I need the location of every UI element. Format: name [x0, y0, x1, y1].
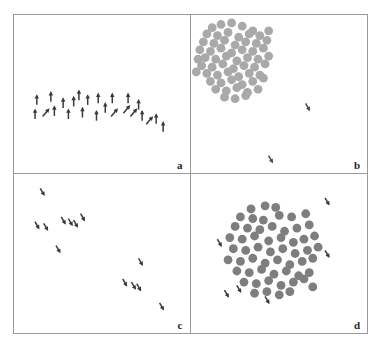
- data-point-tick: [137, 257, 145, 267]
- data-point-dot: [232, 267, 241, 276]
- data-point-dot: [244, 268, 253, 277]
- data-point-arrow: [136, 99, 140, 110]
- data-point-dot: [216, 20, 225, 29]
- data-point-arrow: [86, 94, 90, 105]
- data-point-arrow: [96, 93, 100, 104]
- data-point-dot: [236, 213, 245, 222]
- figure-four-panel-grid: a b c d: [13, 14, 368, 334]
- figure-panel-grid-container: a b c d: [0, 0, 384, 352]
- data-point-tick: [158, 302, 166, 312]
- data-point-dot: [195, 45, 204, 54]
- data-point-dot: [230, 94, 239, 103]
- data-point-dot: [218, 60, 227, 69]
- data-point-arrow: [103, 102, 107, 113]
- data-point-tick: [66, 217, 74, 227]
- data-point-dot: [198, 37, 207, 46]
- panel-a-svg: [14, 15, 190, 173]
- panel-b-label: b: [354, 160, 360, 171]
- data-point-dot: [248, 214, 257, 223]
- data-point-dot: [220, 36, 229, 45]
- data-point-dot: [288, 278, 297, 287]
- data-point-dot: [248, 254, 257, 263]
- panel-d[interactable]: d: [191, 174, 368, 333]
- data-point-arrow: [126, 93, 130, 104]
- data-point-dot: [211, 85, 220, 94]
- data-point-dot: [267, 222, 276, 231]
- data-point-dot: [241, 37, 250, 46]
- data-point-dot: [304, 220, 313, 229]
- data-point-tick: [303, 102, 311, 112]
- data-point-dot: [239, 278, 248, 287]
- panel-b[interactable]: b: [191, 15, 368, 174]
- data-point-arrow: [154, 113, 158, 124]
- data-point-dot: [202, 30, 211, 39]
- data-point-dot: [250, 289, 259, 298]
- data-point-tick: [38, 187, 46, 197]
- data-point-dot: [266, 248, 275, 257]
- data-point-dot: [241, 246, 250, 255]
- data-point-dot: [260, 60, 269, 69]
- data-point-arrow: [129, 107, 139, 118]
- panel-c[interactable]: c: [14, 174, 191, 333]
- data-point-dot: [303, 246, 312, 255]
- data-point-dot: [301, 209, 310, 218]
- data-point-dot: [244, 30, 253, 39]
- data-point-dot: [227, 19, 236, 28]
- data-point-dot: [262, 287, 271, 296]
- data-point-dot: [213, 71, 222, 80]
- data-point-arrow: [61, 97, 65, 108]
- data-point-arrow: [145, 115, 155, 126]
- panel-a[interactable]: a: [14, 15, 191, 174]
- data-point-dot: [262, 36, 271, 45]
- data-point-dot: [228, 244, 237, 253]
- panel-d-label: d: [354, 320, 360, 331]
- data-point-dot: [232, 83, 241, 92]
- data-point-dot: [206, 77, 215, 86]
- data-point-dot: [248, 77, 257, 86]
- data-point-dot: [281, 267, 290, 276]
- data-point-dot: [223, 28, 232, 37]
- data-point-dot: [225, 233, 234, 242]
- data-point-dot: [258, 44, 267, 53]
- panel-b-svg: [191, 15, 368, 173]
- data-point-tick: [33, 221, 41, 231]
- data-point-dot: [308, 254, 317, 263]
- panel-a-plot-area: [14, 15, 190, 173]
- data-point-dot: [241, 91, 250, 100]
- data-point-dot: [244, 69, 253, 78]
- panel-b-plot-area: [191, 15, 368, 173]
- data-point-dot: [193, 55, 202, 64]
- data-point-dot: [246, 205, 255, 214]
- data-point-dot: [227, 75, 236, 84]
- data-point-tick: [266, 155, 274, 165]
- data-point-arrow: [109, 107, 119, 118]
- data-point-dot: [253, 243, 262, 252]
- data-point-dot: [223, 68, 232, 77]
- panel-a-label: a: [177, 160, 183, 171]
- data-point-arrow: [161, 121, 165, 132]
- data-point-dot: [288, 238, 297, 247]
- panel-c-svg: [14, 174, 190, 333]
- data-point-dot: [223, 255, 232, 264]
- data-point-arrow: [140, 110, 144, 121]
- data-point-arrow: [35, 94, 39, 105]
- data-point-dot: [258, 74, 267, 83]
- data-point-arrow: [52, 105, 56, 116]
- data-point-dot: [257, 265, 266, 274]
- data-point-dot: [292, 224, 301, 233]
- data-point-arrow: [122, 104, 132, 115]
- data-point-tick: [263, 295, 271, 305]
- data-point-dot: [251, 279, 260, 288]
- data-point-dot: [237, 235, 246, 244]
- data-point-dot: [273, 255, 282, 264]
- data-point-dot: [258, 216, 267, 225]
- data-point-dot: [264, 26, 273, 35]
- data-point-dot: [297, 257, 306, 266]
- data-point-arrow: [77, 89, 81, 100]
- data-point-dot: [243, 53, 252, 62]
- data-point-arrow: [49, 91, 53, 102]
- data-point-arrow: [110, 93, 114, 104]
- data-point-dot: [276, 281, 285, 290]
- data-point-arrow: [33, 108, 37, 119]
- panel-d-plot-area: [191, 174, 368, 333]
